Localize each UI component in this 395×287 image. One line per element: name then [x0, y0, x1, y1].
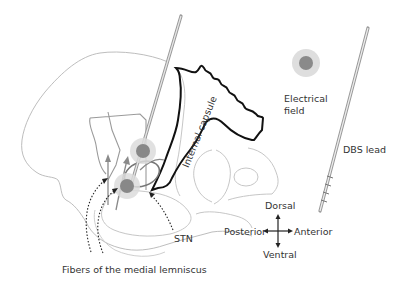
dbs-lead-legend-inner: [320, 28, 368, 211]
putamen-outline: [234, 168, 258, 186]
right-outline: [175, 70, 278, 200]
anterior-label: Anterior: [294, 226, 332, 237]
thalamus-outline: [194, 150, 231, 204]
ventral-label: Ventral: [263, 249, 297, 260]
field-upper-inner: [136, 144, 150, 158]
posterior-label: Posterior: [224, 226, 266, 237]
field-lower-inner: [120, 179, 134, 193]
stn-label: STN: [174, 233, 193, 244]
dorsal-label: Dorsal: [265, 200, 295, 211]
fiber-arrowhead-1: [102, 178, 108, 184]
electrical-field-legend-inner: [299, 56, 313, 70]
gray-arrowhead-1: [105, 154, 111, 162]
gray-arrowhead-2: [123, 156, 130, 165]
electrical-field-label-line1: Electrical: [284, 93, 328, 104]
fibers-label: Fibers of the medial lemniscus: [62, 264, 207, 275]
electrical-field-label-line2: field: [284, 105, 305, 116]
stn-pointer: [151, 195, 173, 230]
internal-capsule: [152, 66, 263, 190]
orientation-compass: [263, 214, 293, 248]
dbs-lead-label: DBS lead: [343, 144, 386, 155]
